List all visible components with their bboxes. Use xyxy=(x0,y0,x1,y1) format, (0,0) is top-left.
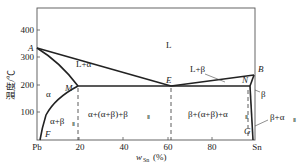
x-tick-80: 80 xyxy=(208,142,218,152)
y-axis-label: 温度/℃ xyxy=(5,70,16,100)
point-F: F xyxy=(44,129,51,139)
y-tick-400: 400 xyxy=(21,25,35,35)
svg-text:Sn: Sn xyxy=(143,157,149,163)
phase-diagram: 100 200 300 400 温度/℃ Pb 20 40 60 80 Sn w… xyxy=(0,0,304,164)
svg-text:Ⅱ: Ⅱ xyxy=(72,121,75,127)
region-beta-alphaII: β+α Ⅱ xyxy=(270,112,296,123)
point-B: B xyxy=(258,64,264,74)
region-hypereutectic: β+(α+β)+α Ⅱ xyxy=(188,109,248,120)
y-tick-100: 100 xyxy=(21,107,35,117)
svg-text:α+(α+β)+β: α+(α+β)+β xyxy=(88,109,128,119)
svg-text:Ⅱ: Ⅱ xyxy=(147,114,150,120)
plot-frame xyxy=(37,8,255,140)
point-E: E xyxy=(165,75,172,85)
point-M: M xyxy=(64,83,73,93)
y-tick-300: 300 xyxy=(21,52,35,62)
region-alpha-betaII: α+β Ⅱ xyxy=(50,116,75,127)
point-G: G xyxy=(244,126,251,136)
x-tick-20: 20 xyxy=(76,142,86,152)
svg-text:Ⅱ: Ⅱ xyxy=(293,117,296,123)
point-A: A xyxy=(27,43,34,53)
phase-lines xyxy=(37,48,254,140)
region-beta: β xyxy=(261,89,266,99)
svg-text:w: w xyxy=(136,152,142,162)
x-tick-40: 40 xyxy=(120,142,130,152)
x-tick-pb: Pb xyxy=(32,142,42,152)
svg-text:β+α: β+α xyxy=(270,112,285,122)
x-tick-60: 60 xyxy=(164,142,174,152)
svg-text:β+(α+β)+α: β+(α+β)+α xyxy=(188,109,228,119)
liquidus-AE xyxy=(37,48,171,86)
region-alpha: α xyxy=(46,89,51,99)
point-N: N xyxy=(241,75,249,85)
svg-text:α+β: α+β xyxy=(50,116,65,126)
svg-text:Ⅱ: Ⅱ xyxy=(245,114,248,120)
region-L: L xyxy=(166,40,172,50)
x-tick-sn: Sn xyxy=(252,142,262,152)
svg-text:(%): (%) xyxy=(153,152,167,162)
x-axis-label: w Sn (%) xyxy=(136,152,167,163)
region-L-beta: L+β xyxy=(190,64,206,74)
y-tick-200: 200 xyxy=(21,80,35,90)
region-L-alpha: L+α xyxy=(76,59,92,69)
solidus-BN xyxy=(250,75,254,86)
region-hypoeutectic: α+(α+β)+β Ⅱ xyxy=(88,109,150,120)
